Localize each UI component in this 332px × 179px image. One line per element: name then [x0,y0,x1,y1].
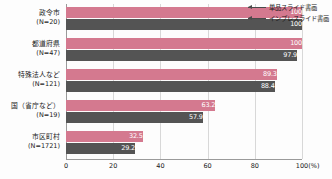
bar-value-label: 57.9 [66,112,205,123]
bar-group: 32.529.2 [66,131,302,154]
bar-row: 32.5 [66,131,302,142]
category-label: 特殊法人など(N=121) [0,71,60,88]
bar-row: 89.3 [66,69,302,80]
bar-row: 100 [66,38,302,49]
legend-label: インプレスライド書画 [269,13,329,24]
legend-leader-line [248,7,266,8]
bar-chart: 10010010097.989.388.463.257.932.529.2 政令… [0,0,332,179]
x-tick-label: 20 [109,162,117,170]
category-name: 市区町村 [32,133,60,141]
bar-group: 63.257.9 [66,100,302,123]
x-tick-label: 0 [64,162,68,170]
bar-value-label: 100 [66,38,304,49]
plot-area: 10010010097.989.388.463.257.932.529.2 [66,4,302,159]
bar-value-label: 32.5 [66,131,145,142]
category-name: 特殊法人など [18,71,60,79]
category-name: 都道府県 [32,40,60,48]
bar-row: 88.4 [66,81,302,92]
category-label: 都道府県(N=47) [0,40,60,57]
legend-item-0: 単品スライド書画 [248,2,332,13]
bar-value-label: 89.3 [66,69,279,80]
category-name: 国（省庁など） [11,102,60,110]
bar-row: 63.2 [66,100,302,111]
bar-value-label: 88.4 [66,81,277,92]
category-name: 政令市 [39,9,60,17]
x-tick-label: 60 [203,162,211,170]
legend-item-1: インプレスライド書画 [248,13,332,24]
category-count: (N=121) [0,80,60,89]
x-axis-line [66,159,302,160]
bar-value-label: 97.9 [66,50,299,61]
x-tick-label: 40 [156,162,164,170]
category-count: (N=20) [0,18,60,27]
legend-label: 単品スライド書画 [269,2,317,13]
chart-legend: 単品スライド書画 インプレスライド書画 [248,2,332,24]
bar-group: 10097.9 [66,38,302,61]
category-count: (N=47) [0,49,60,58]
x-tick-label: 80 [251,162,259,170]
bar-row: 57.9 [66,112,302,123]
bar-row: 29.2 [66,143,302,154]
legend-leader-line [248,18,266,19]
category-count: (N=19) [0,111,60,120]
bar-value-label: 29.2 [66,143,137,154]
x-tick-label: 100(%) [296,162,320,170]
bar-value-label: 63.2 [66,100,217,111]
category-label: 市区町村(N=1721) [0,133,60,150]
category-label: 政令市(N=20) [0,9,60,26]
bar-row: 97.9 [66,50,302,61]
bar-group: 89.388.4 [66,69,302,92]
category-label: 国（省庁など）(N=19) [0,102,60,119]
category-count: (N=1721) [0,142,60,151]
